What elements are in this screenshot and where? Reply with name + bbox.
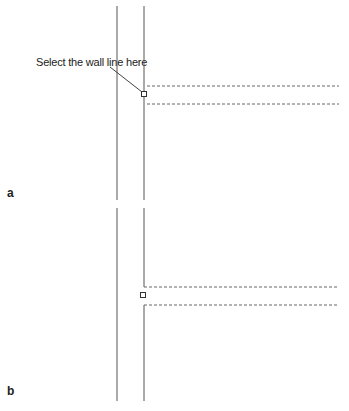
wall-diagram — [0, 0, 349, 411]
leader-line — [110, 67, 142, 92]
panel-a — [110, 6, 339, 200]
pick-box-icon — [141, 293, 146, 298]
pick-box-icon — [142, 92, 147, 97]
panel-b — [117, 208, 339, 401]
